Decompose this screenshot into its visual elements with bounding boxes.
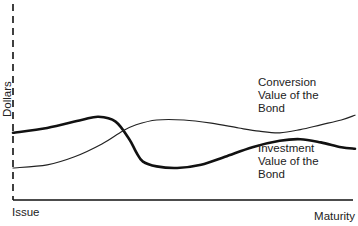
series-label-conversion: Conversion Value of the Bond	[258, 76, 319, 114]
series-label-conversion-line1: Conversion	[258, 76, 316, 88]
x-tick-label-maturity: Maturity	[314, 210, 355, 222]
series-label-investment-line2: Value of the	[258, 155, 319, 167]
series-label-investment: Investment Value of the Bond	[258, 142, 319, 180]
series-label-conversion-line3: Bond	[258, 102, 285, 114]
series-label-investment-line3: Bond	[258, 168, 285, 180]
x-tick-label-issue: Issue	[12, 206, 40, 218]
chart: Dollars Issue Maturity Conversion Value …	[0, 0, 358, 226]
y-axis-label: Dollars	[1, 81, 13, 117]
series-label-investment-line1: Investment	[258, 142, 315, 154]
series-label-conversion-line2: Value of the	[258, 89, 319, 101]
